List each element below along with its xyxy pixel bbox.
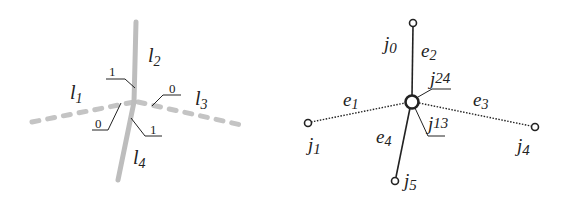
annotation-upper-right: 0 [169, 81, 176, 96]
label-l3: l3 [195, 87, 208, 112]
line-l1 [32, 102, 134, 122]
leader-j24 [418, 89, 451, 97]
label-j5: j5 [401, 170, 417, 193]
edge-e2 [412, 26, 413, 96]
label-e4: e4 [376, 126, 391, 149]
node-center [406, 96, 419, 109]
right-diagram: j0 j1 j4 j5 j24 j13 e1 e2 e3 e4 [305, 20, 539, 194]
label-e2: e2 [421, 40, 436, 63]
label-e3: e3 [473, 89, 488, 112]
label-j0: j0 [381, 33, 397, 56]
annotation-upper-left: 1 [109, 64, 116, 79]
annotation-lower-left: 0 [95, 116, 102, 131]
label-l4: l4 [133, 146, 146, 171]
node-j0 [410, 20, 417, 27]
node-j4 [532, 124, 539, 131]
label-j1: j1 [305, 134, 321, 157]
line-l4 [118, 102, 134, 180]
leader-upper-left [106, 79, 135, 88]
label-j13: j13 [425, 113, 448, 134]
leader-lower-right [131, 118, 162, 136]
node-j5 [392, 178, 399, 185]
edge-e4 [396, 108, 410, 177]
label-l1: l1 [70, 81, 83, 106]
annotation-lower-right: 1 [150, 122, 157, 137]
line-l2 [134, 22, 136, 102]
diagram-canvas: l2 l1 l3 l4 1 0 0 1 [0, 0, 567, 199]
label-j4: j4 [514, 135, 530, 158]
label-j24: j24 [427, 68, 451, 89]
left-diagram: l2 l1 l3 l4 1 0 0 1 [32, 22, 246, 180]
node-j1 [305, 120, 312, 127]
label-l2: l2 [148, 44, 161, 69]
label-e1: e1 [343, 89, 358, 112]
